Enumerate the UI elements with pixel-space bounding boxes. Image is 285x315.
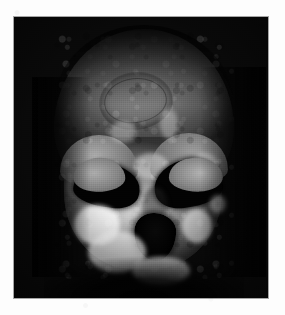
shadow-crown-fade (54, 25, 234, 105)
page-canvas (0, 0, 285, 315)
photographic-plate (14, 17, 268, 298)
fossil-cranium-image (14, 17, 268, 298)
bone-highlight (160, 109, 178, 139)
bone-highlight (110, 121, 136, 143)
shadow-base (44, 253, 244, 298)
shadow-left-flank (32, 77, 90, 277)
